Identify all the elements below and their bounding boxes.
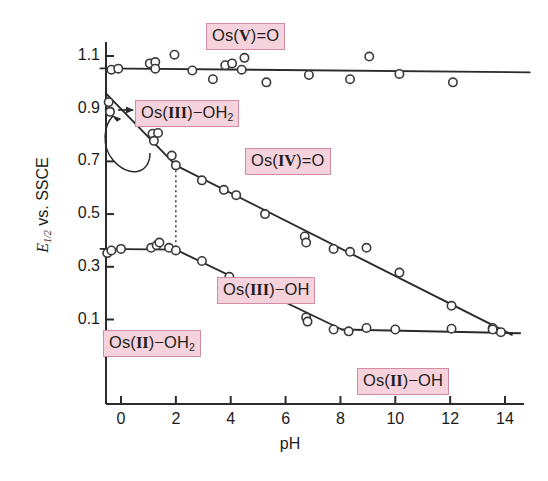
- species-suffix: )−OH: [149, 333, 189, 351]
- species-suffix: )=O: [251, 26, 279, 44]
- os-iii-oh2-label: Os(III)−OH2: [135, 100, 239, 127]
- data-point: [228, 59, 236, 67]
- data-point: [346, 75, 354, 83]
- data-point: [172, 246, 180, 254]
- x-axis-tick-label: 14: [485, 410, 525, 428]
- data-point: [365, 52, 373, 60]
- data-point: [362, 244, 370, 252]
- data-point: [237, 66, 245, 74]
- data-point: [395, 268, 403, 276]
- data-point: [106, 108, 114, 116]
- species-prefix: Os(: [141, 103, 168, 121]
- os-iii-oh-label: Os(III)−OH: [217, 277, 315, 304]
- data-point: [104, 98, 112, 106]
- data-point: [447, 302, 455, 310]
- y-axis-tick-label: 1.1: [56, 46, 100, 64]
- x-axis-tick-label: 6: [266, 410, 306, 428]
- y-axis-tick-label: 0.7: [56, 151, 100, 169]
- species-suffix: )−OH: [403, 371, 443, 389]
- data-point: [262, 78, 270, 86]
- y-axis-tick-label: 0.1: [56, 310, 100, 328]
- data-point: [209, 75, 217, 83]
- data-point: [391, 325, 399, 333]
- data-point: [329, 325, 337, 333]
- species-oxidation-state: IV: [278, 151, 296, 170]
- species-prefix: Os(: [109, 333, 136, 351]
- species-suffix: )=O: [296, 151, 324, 169]
- y-axis-tick-label: 0.5: [56, 204, 100, 222]
- data-point: [107, 246, 115, 254]
- species-subscript: 2: [227, 111, 233, 123]
- x-axis-tick-label: 8: [320, 410, 360, 428]
- data-point: [261, 210, 269, 218]
- data-point: [198, 257, 206, 265]
- data-point: [170, 50, 178, 58]
- os-iv-oxo-label: Os(IV)=O: [245, 148, 331, 175]
- y-axis-tick-label: 0.9: [56, 99, 100, 117]
- data-point: [449, 78, 457, 86]
- x-axis-tick-label: 10: [375, 410, 415, 428]
- data-point: [172, 161, 180, 169]
- x-axis-tick-label: 2: [156, 410, 196, 428]
- data-point: [346, 248, 354, 256]
- species-oxidation-state: III: [168, 103, 187, 122]
- species-prefix: Os(: [363, 371, 390, 389]
- species-prefix: Os(: [212, 26, 239, 44]
- data-point: [447, 325, 455, 333]
- data-point: [155, 238, 163, 246]
- curved-annotation-arrowhead: [113, 116, 121, 121]
- data-point: [488, 325, 496, 333]
- chart-figure: E1/2 vs. SSCE pH 1.10.90.70.50.30.102468…: [0, 0, 548, 481]
- os-ii-oh-label: Os(II)−OH: [357, 368, 449, 395]
- data-point: [240, 54, 248, 62]
- species-prefix: Os(: [251, 151, 278, 169]
- species-oxidation-state: III: [250, 280, 269, 299]
- species-suffix: )−OH: [187, 103, 227, 121]
- data-point: [117, 245, 125, 253]
- species-prefix: Os(: [223, 280, 250, 298]
- species-oxidation-state: II: [136, 333, 149, 352]
- species-suffix: )−OH: [269, 280, 309, 298]
- x-axis-title: pH: [280, 435, 300, 453]
- os-v-oxo-label: Os(V)=O: [206, 23, 285, 50]
- fit-line: [100, 68, 529, 72]
- data-point: [150, 137, 158, 145]
- data-point: [154, 129, 162, 137]
- y-axis-title-rest: vs. SSCE: [34, 157, 51, 230]
- data-point: [497, 328, 505, 336]
- data-point: [188, 66, 196, 74]
- y-axis-title: E1/2 vs. SSCE: [34, 120, 52, 290]
- data-point: [329, 245, 337, 253]
- data-point: [198, 176, 206, 184]
- y-axis-tick-label: 0.3: [56, 257, 100, 275]
- species-subscript: 2: [189, 341, 195, 353]
- data-point: [151, 64, 159, 72]
- x-axis-tick-label: 4: [211, 410, 251, 428]
- os-ii-oh2-label: Os(II)−OH2: [103, 330, 201, 357]
- species-oxidation-state: II: [390, 371, 403, 390]
- data-point: [302, 238, 310, 246]
- data-point: [168, 151, 176, 159]
- x-axis-tick-label: 12: [430, 410, 470, 428]
- data-series: [107, 50, 457, 86]
- data-point: [220, 186, 228, 194]
- data-point: [344, 327, 352, 335]
- data-point: [303, 317, 311, 325]
- data-point: [305, 71, 313, 79]
- data-point: [114, 64, 122, 72]
- species-oxidation-state: V: [239, 26, 251, 45]
- label-pointer-arrowhead: [126, 107, 134, 114]
- chart-plot-area: [0, 0, 548, 481]
- data-point: [232, 191, 240, 199]
- x-axis-tick-label: 0: [101, 410, 141, 428]
- data-point: [395, 70, 403, 78]
- data-point: [362, 324, 370, 332]
